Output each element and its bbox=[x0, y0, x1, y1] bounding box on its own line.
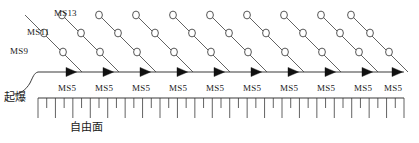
delay-arrow-icon bbox=[325, 67, 336, 76]
blast-hole-node bbox=[337, 29, 344, 37]
diagram-svg bbox=[0, 0, 419, 143]
initiation-point-label: 起爆 bbox=[4, 92, 26, 103]
blast-hole-node bbox=[115, 29, 122, 37]
delay-arrow-icon bbox=[392, 67, 403, 76]
diagonal-delay-line bbox=[99, 15, 156, 72]
ms9-row-label: MS9 bbox=[10, 47, 28, 56]
blast-hole-nodes bbox=[41, 11, 393, 56]
ms5-delay-label: MS5 bbox=[95, 84, 113, 93]
ms5-delay-label: MS5 bbox=[384, 84, 402, 93]
blast-hole-node bbox=[281, 11, 288, 19]
free-face-hatching bbox=[38, 98, 404, 118]
diagonal-delay-line bbox=[247, 15, 304, 72]
blast-hole-node bbox=[319, 48, 326, 56]
figure-canvas: MS13MS11MS9MS5MS5MS5MS5MS5MS5MS5MS5MS5MS… bbox=[0, 0, 419, 143]
blast-hole-node bbox=[244, 11, 251, 19]
diagonal-delay-line bbox=[210, 15, 267, 72]
ms5-delay-label: MS5 bbox=[58, 84, 76, 93]
free-face-label: 自由面 bbox=[70, 122, 103, 133]
delay-arrow-icon bbox=[214, 67, 225, 76]
ms5-delay-label: MS5 bbox=[280, 84, 298, 93]
blast-hole-node bbox=[348, 11, 355, 19]
ms5-delay-label: MS5 bbox=[243, 84, 261, 93]
diagonal-delay-line bbox=[351, 15, 408, 72]
diagonal-delay-lines bbox=[25, 15, 408, 72]
ms11-row-label: MS11 bbox=[27, 28, 49, 37]
blast-hole-node bbox=[96, 11, 103, 19]
diagonal-delay-line bbox=[136, 15, 193, 72]
blast-hole-node bbox=[97, 48, 104, 56]
delay-arrow-icon bbox=[140, 67, 151, 76]
delay-arrow-icon bbox=[103, 67, 114, 76]
diagonal-delay-line bbox=[321, 15, 378, 72]
ms5-delay-label: MS5 bbox=[317, 84, 335, 93]
blast-hole-node bbox=[386, 48, 393, 56]
blast-hole-node bbox=[300, 29, 307, 37]
diagonal-delay-line bbox=[62, 15, 119, 72]
diagonal-delay-line bbox=[173, 15, 230, 72]
delay-arrow-icon bbox=[288, 67, 299, 76]
ms5-delay-label: MS5 bbox=[206, 84, 224, 93]
blast-hole-node bbox=[356, 48, 363, 56]
blast-hole-node bbox=[207, 11, 214, 19]
ms5-delay-label: MS5 bbox=[169, 84, 187, 93]
blast-hole-node bbox=[208, 48, 215, 56]
diagonal-delay-line bbox=[25, 15, 82, 72]
delay-arrow-icon bbox=[177, 67, 188, 76]
blast-hole-node bbox=[318, 11, 325, 19]
diagonal-delay-line bbox=[284, 15, 341, 72]
ms5-delay-label: MS5 bbox=[354, 84, 372, 93]
blast-hole-node bbox=[60, 48, 67, 56]
blast-hole-node bbox=[78, 29, 85, 37]
blast-hole-node bbox=[226, 29, 233, 37]
blast-hole-node bbox=[367, 29, 374, 37]
blast-hole-node bbox=[245, 48, 252, 56]
ms5-delay-label: MS5 bbox=[132, 84, 150, 93]
blast-hole-node bbox=[152, 29, 159, 37]
blast-hole-node bbox=[282, 48, 289, 56]
delay-arrow-icon bbox=[362, 67, 373, 76]
blast-hole-node bbox=[170, 11, 177, 19]
blast-hole-node bbox=[134, 48, 141, 56]
blast-hole-node bbox=[263, 29, 270, 37]
ms13-row-label: MS13 bbox=[54, 9, 77, 18]
blast-hole-node bbox=[189, 29, 196, 37]
blast-hole-node bbox=[133, 11, 140, 19]
blast-hole-node bbox=[171, 48, 178, 56]
delay-arrow-icon bbox=[251, 67, 262, 76]
delay-arrow-icon bbox=[66, 67, 77, 76]
